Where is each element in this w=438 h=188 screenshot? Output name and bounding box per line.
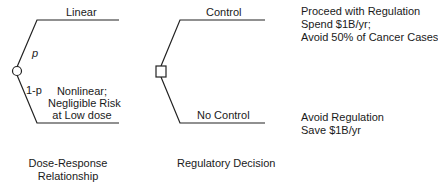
chance-node-icon xyxy=(13,67,22,76)
probability-p: p xyxy=(32,47,38,59)
outcome-no-regulation: Avoid Regulation Save $1B/yr xyxy=(301,111,384,137)
outcome-regulation-line-3: Avoid 50% of Cancer Cases xyxy=(301,31,438,44)
nonlinear-line-2: Negligible Risk xyxy=(48,97,116,109)
branch-label-control: Control xyxy=(206,6,241,18)
branch-control xyxy=(161,20,265,66)
outcome-regulation: Proceed with Regulation Spend $1B/yr; Av… xyxy=(301,5,438,44)
caption-dose-response: Dose-Response Relationship xyxy=(28,157,108,183)
probability-1-minus-p: 1-p xyxy=(26,84,42,96)
outcome-regulation-line-2: Spend $1B/yr; xyxy=(301,18,438,31)
outcome-no-regulation-line-2: Save $1B/yr xyxy=(301,124,384,137)
nonlinear-line-1: Nonlinear; xyxy=(48,85,116,97)
caption-regulatory-decision: Regulatory Decision xyxy=(177,157,275,169)
caption-dose-response-line-1: Dose-Response xyxy=(28,157,108,170)
branch-label-no-control: No Control xyxy=(197,109,250,121)
outcome-no-regulation-line-1: Avoid Regulation xyxy=(301,111,384,124)
branch-label-linear: Linear xyxy=(66,6,97,18)
outcome-regulation-line-1: Proceed with Regulation xyxy=(301,5,438,18)
branch-label-nonlinear: Nonlinear; Negligible Risk at Low dose xyxy=(48,85,116,121)
caption-dose-response-line-2: Relationship xyxy=(28,170,108,183)
decision-node-icon xyxy=(156,66,166,77)
branch-linear xyxy=(17,20,119,67)
nonlinear-line-3: at Low dose xyxy=(48,109,116,121)
